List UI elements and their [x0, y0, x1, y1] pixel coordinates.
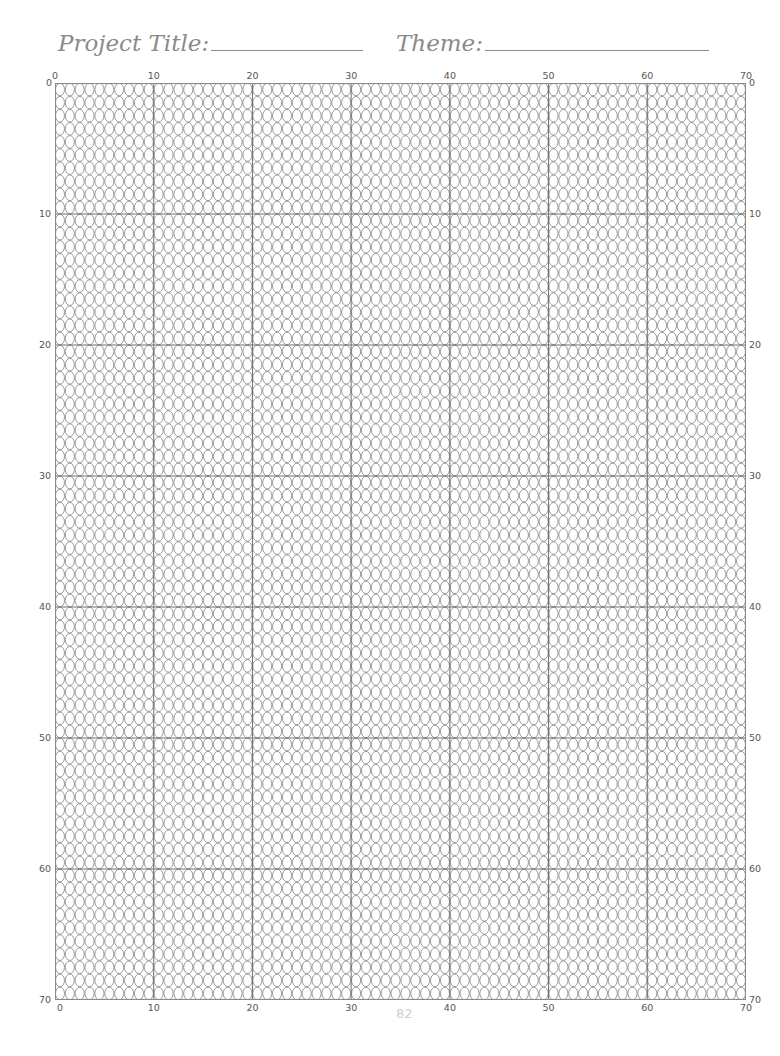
theme-blank-line [485, 49, 709, 51]
bottom-axis-label: 0 [57, 1003, 63, 1013]
left-axis-label: 70 [39, 995, 51, 1005]
left-axis-label: 20 [39, 340, 51, 350]
right-axis-label: 70 [749, 995, 761, 1005]
left-axis-label: 0 [46, 78, 52, 88]
project-title-blank-line [211, 49, 363, 51]
top-axis-label: 20 [246, 71, 258, 81]
page-number: 82 [396, 1006, 413, 1021]
left-axis-label: 40 [39, 602, 51, 612]
project-title-field: Project Title: [58, 30, 363, 56]
theme-label: Theme: [396, 30, 483, 56]
theme-field: Theme: [396, 30, 709, 56]
project-title-label: Project Title: [58, 30, 209, 56]
left-axis-label: 10 [39, 209, 51, 219]
top-axis-label: 40 [444, 71, 456, 81]
top-axis-label: 0 [52, 71, 58, 81]
right-axis-label: 60 [749, 864, 761, 874]
top-axis-label: 30 [345, 71, 357, 81]
bottom-axis-label: 20 [246, 1003, 258, 1013]
right-axis-label: 10 [749, 209, 761, 219]
page-header: Project Title: Theme: [58, 30, 758, 66]
top-axis-label: 60 [641, 71, 653, 81]
right-axis-label: 40 [749, 602, 761, 612]
bottom-axis-label: 50 [543, 1003, 555, 1013]
bottom-axis-label: 10 [148, 1003, 160, 1013]
right-axis-label: 30 [749, 471, 761, 481]
right-axis-label: 50 [749, 733, 761, 743]
left-axis-label: 50 [39, 733, 51, 743]
right-axis-label: 20 [749, 340, 761, 350]
bottom-axis-label: 40 [444, 1003, 456, 1013]
right-axis-label: 0 [749, 78, 755, 88]
oval-bead-grid [55, 83, 746, 1000]
left-axis-label: 30 [39, 471, 51, 481]
bead-grid [55, 83, 746, 1000]
bottom-axis-label: 30 [345, 1003, 357, 1013]
left-axis-label: 60 [39, 864, 51, 874]
top-axis-label: 10 [148, 71, 160, 81]
bottom-axis-label: 60 [641, 1003, 653, 1013]
top-axis-label: 50 [543, 71, 555, 81]
